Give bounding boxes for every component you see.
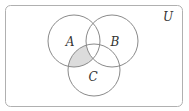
set-a-label: A [65, 35, 75, 49]
set-b-label: B [110, 35, 120, 49]
venn-diagram: A B C U [0, 0, 189, 111]
universe-label: U [163, 10, 174, 24]
set-c-label: C [88, 70, 97, 84]
